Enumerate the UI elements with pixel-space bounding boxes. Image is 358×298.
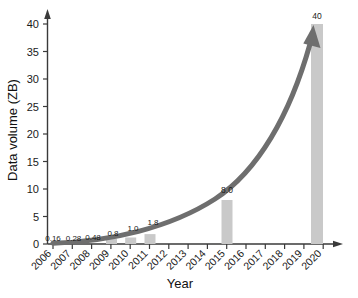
chart-container: 0 5 10 15 20 25 30 35 40 Data volume (ZB… [0, 0, 358, 298]
x-tick-label: 2018 [260, 247, 285, 272]
y-axis-title: Data volume (ZB) [5, 79, 20, 181]
data-volume-bar-chart: 0 5 10 15 20 25 30 35 40 Data volume (ZB… [0, 0, 358, 298]
x-tick-label: 2011 [125, 247, 150, 272]
x-axis-arrowhead [333, 241, 343, 248]
bar-2015 [222, 200, 233, 244]
value-label-2015: 8.0 [221, 185, 233, 195]
trend-curve [53, 44, 310, 243]
value-label-2020: 40 [312, 11, 322, 21]
bars-group [106, 24, 323, 244]
bar-2011 [145, 234, 156, 244]
value-label-2006: 0.16 [45, 234, 61, 243]
y-tick-label: 20 [27, 128, 39, 140]
y-tick-label: 5 [33, 211, 39, 223]
value-labels: 0.16 0.28 0.48 0.8 1.0 1.8 8.0 40 [45, 11, 322, 243]
x-tick-label: 2017 [241, 247, 266, 272]
value-label-2008: 0.48 [85, 233, 101, 242]
x-tick-label: 2013 [164, 247, 189, 272]
x-axis-title: Year [167, 276, 194, 291]
x-tick-label: 2010 [106, 247, 131, 272]
y-tick-label: 25 [27, 101, 39, 113]
x-tick-marks [53, 244, 323, 249]
bar-2010 [125, 238, 136, 245]
x-tick-label: 2012 [144, 247, 169, 272]
bar-2020 [311, 24, 323, 244]
y-tick-labels: 0 5 10 15 20 25 30 35 40 [27, 18, 39, 250]
x-tick-label: 2006 [28, 247, 53, 272]
x-tick-label: 2019 [279, 247, 304, 272]
trend-arrow [53, 25, 321, 243]
y-tick-label: 0 [33, 238, 39, 250]
value-label-2011: 1.8 [147, 218, 159, 227]
x-tick-labels: 2006 2007 2008 2009 2010 2011 2012 2013 … [28, 247, 323, 272]
x-tick-label: 2016 [221, 247, 246, 272]
x-tick-label: 2009 [86, 247, 111, 272]
value-label-2010: 1.0 [127, 224, 139, 233]
y-axis-arrowhead [44, 9, 51, 19]
x-tick-label: 2007 [48, 247, 73, 272]
y-tick-label: 35 [27, 46, 39, 58]
y-tick-label: 30 [27, 73, 39, 85]
x-tick-label: 2020 [299, 247, 324, 272]
x-tick-label: 2015 [202, 247, 227, 272]
x-tick-label: 2014 [183, 247, 208, 272]
y-tick-label: 10 [27, 183, 39, 195]
y-axis [44, 9, 51, 244]
y-tick-label: 40 [27, 18, 39, 30]
y-tick-label: 15 [27, 156, 39, 168]
value-label-2009: 0.8 [107, 229, 119, 238]
value-label-2007: 0.28 [66, 234, 82, 243]
x-tick-label: 2008 [67, 247, 92, 272]
